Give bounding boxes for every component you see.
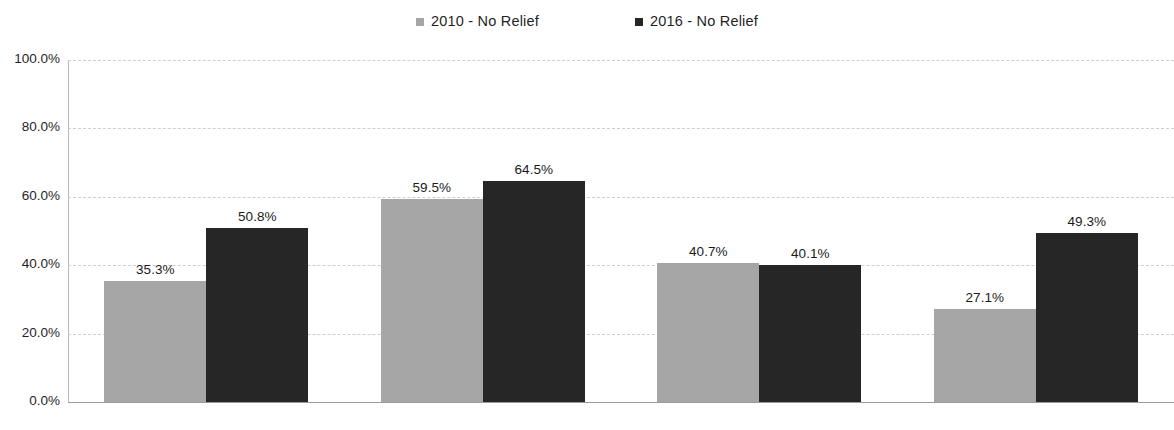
bar-white-2010[interactable] [104,281,206,402]
x-axis-line [68,402,1174,403]
legend-label-2016: 2016 - No Relief [650,13,758,29]
legend-swatch-2016-icon [635,18,643,26]
bar-black-2016[interactable] [483,181,585,402]
gridline [68,197,1174,198]
bar-value-label: 49.3% [1036,214,1138,229]
bar-value-label: 27.1% [934,290,1036,305]
bar-value-label: 35.3% [104,262,206,277]
gridline [68,60,1174,61]
bar-hispanic-2010[interactable] [657,263,759,402]
bar-value-label: 59.5% [381,180,483,195]
bar-white-2016[interactable] [206,228,308,402]
bar-black-2010[interactable] [381,199,483,402]
legend-swatch-2010-icon [416,18,424,26]
legend-label-2010: 2010 - No Relief [431,13,539,29]
y-axis-tick-label: 20.0% [0,325,60,340]
bar-other-2010[interactable] [934,309,1036,402]
bar-value-label: 40.7% [657,244,759,259]
y-axis-tick-label: 100.0% [0,51,60,66]
y-axis-tick-label: 40.0% [0,256,60,271]
bar-value-label: 50.8% [206,209,308,224]
y-axis-tick-label: 80.0% [0,119,60,134]
plot-area: 0.0%20.0%40.0%60.0%80.0%100.0% 35.3%50.8… [68,60,1174,402]
gridline [68,128,1174,129]
bar-chart: 2010 - No Relief 2016 - No Relief 0.0%20… [0,0,1174,430]
y-axis-tick-label: 0.0% [0,393,60,408]
legend-item-2016[interactable]: 2016 - No Relief [635,13,758,29]
bar-hispanic-2016[interactable] [759,265,861,402]
bar-value-label: 40.1% [759,246,861,261]
chart-legend: 2010 - No Relief 2016 - No Relief [0,8,1174,34]
bar-value-label: 64.5% [483,162,585,177]
bar-other-2016[interactable] [1036,233,1138,402]
y-axis-tick-label: 60.0% [0,188,60,203]
legend-item-2010[interactable]: 2010 - No Relief [416,13,539,29]
y-axis-line [68,60,69,402]
